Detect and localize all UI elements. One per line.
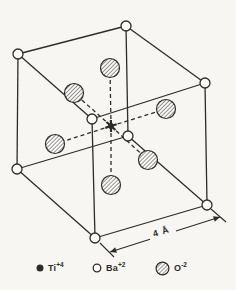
cube-edge [18,26,126,54]
legend-label-ba: Ba+2 [106,263,125,273]
extension-line [211,209,226,222]
o-atom [101,59,120,78]
dimension-arrow: 4 Å [100,209,226,257]
ba-atom-bottom-front [90,233,100,243]
ba-atom-bottom-back [123,131,133,141]
ba-atom-top-back [121,21,131,31]
ti-filled-dot-icon [36,264,44,272]
cube-edge [95,205,207,238]
o-hatched-circle-icon [155,261,170,276]
extension-line [100,243,114,257]
ti-star-core [108,123,114,129]
dimension-line [176,217,220,231]
cube-edge [126,26,128,136]
o-atom [139,151,158,170]
ba-atom-bottom-right [202,200,212,210]
cube-edge [126,26,205,83]
ba-atom-top-left [13,49,23,59]
arrowhead [110,247,117,252]
cube-edge [128,136,207,205]
cube-edge [92,119,95,238]
cube-edge [205,83,207,205]
cube-edge [17,169,95,238]
ba-atom-top-right [200,78,210,88]
o-atom [65,84,84,103]
atoms [12,21,212,243]
legend-label-o: O-2 [174,263,187,273]
legend: Ti+4 Ba+2 O-2 [0,256,236,280]
ba-open-circle-icon [92,263,102,273]
legend-label-ti: Ti+4 [48,263,64,273]
o-atom [102,176,121,195]
legend-item-o: O-2 [155,256,187,280]
legend-item-ba: Ba+2 [92,256,125,280]
ti-atom [105,120,116,132]
o-atom [46,135,65,154]
arrowhead [213,216,220,221]
ba-atom-top-front [87,114,97,124]
cube-edge [17,54,18,169]
ba-atom-bottom-left [12,164,22,174]
o-atom [157,100,176,119]
dimension-label: 4 Å [151,224,170,239]
unit-cell-diagram: 4 Å [0,0,236,290]
legend-item-ti: Ti+4 [36,256,64,280]
cube-edge [92,83,205,119]
